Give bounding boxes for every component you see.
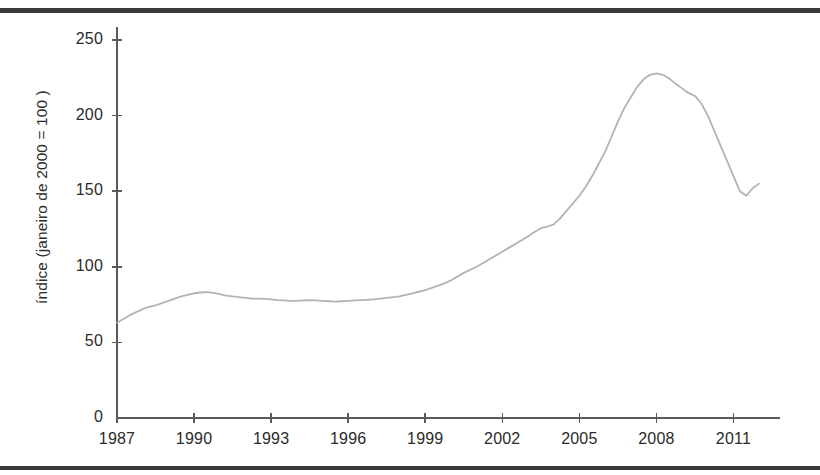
data-series-group — [117, 73, 759, 322]
x-tick-label: 2002 — [467, 430, 537, 448]
y-tick-label: 100 — [43, 257, 103, 275]
x-tick-label: 1999 — [390, 430, 460, 448]
y-tick-label: 0 — [43, 408, 103, 426]
y-tick-label: 250 — [43, 30, 103, 48]
x-tick-label: 1990 — [159, 430, 229, 448]
y-tick-label: 200 — [43, 106, 103, 124]
x-tick-label: 1996 — [313, 430, 383, 448]
figure-container: índice (janeiro de 2000 = 100 ) 05010015… — [0, 0, 820, 475]
x-tick-label: 2008 — [621, 430, 691, 448]
y-tick-label: 50 — [43, 332, 103, 350]
data-line-indice — [117, 73, 759, 322]
chart-svg — [0, 13, 820, 466]
x-tick-label: 1993 — [236, 430, 306, 448]
chart-plot-area: índice (janeiro de 2000 = 100 ) 05010015… — [0, 13, 820, 466]
x-tick-label: 1987 — [82, 430, 152, 448]
y-tick-label: 150 — [43, 181, 103, 199]
x-tick-label: 2011 — [698, 430, 768, 448]
bottom-rule — [0, 466, 820, 470]
x-tick-label: 2005 — [544, 430, 614, 448]
